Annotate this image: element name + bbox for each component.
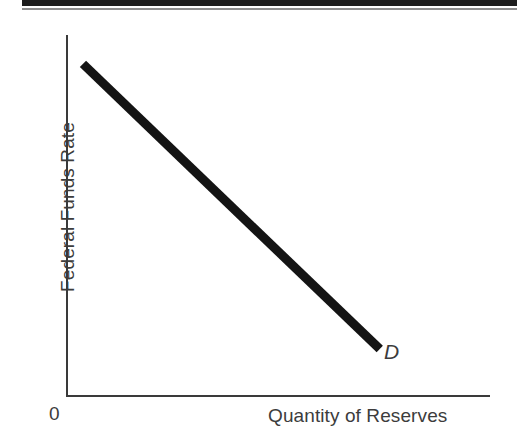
- x-axis-title: Quantity of Reserves: [268, 405, 447, 427]
- y-axis-title: Federal Funds Rate: [57, 77, 79, 337]
- demand-curve-line: [83, 64, 380, 349]
- top-rule-thin-line: [22, 8, 517, 10]
- top-rule-band: [22, 0, 517, 6]
- origin-label: 0: [49, 403, 60, 425]
- figure-container: Federal Funds Rate Quantity of Reserves …: [0, 0, 517, 441]
- demand-curve-label: D: [384, 340, 399, 364]
- x-axis-line: [66, 395, 490, 397]
